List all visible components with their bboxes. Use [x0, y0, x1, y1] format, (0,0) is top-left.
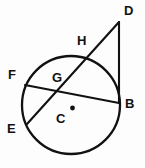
center-point-dot: [70, 106, 75, 111]
point-label-h: H: [77, 34, 86, 47]
geometry-canvas: [0, 0, 145, 168]
point-label-c: C: [56, 112, 65, 125]
point-label-f: F: [8, 68, 16, 81]
point-label-g: G: [52, 71, 62, 84]
point-label-d: D: [124, 4, 133, 17]
point-label-e: E: [7, 122, 16, 135]
chord-segment-FB: [25, 85, 119, 103]
geometry-diagram: D H B F G E C: [0, 0, 145, 168]
main-circle: [22, 56, 120, 154]
point-label-b: B: [125, 97, 134, 110]
